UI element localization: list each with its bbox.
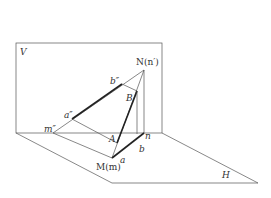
label-n: n — [145, 131, 151, 141]
line-a2-b2-thick — [72, 84, 122, 119]
label-N: N(n′) — [136, 57, 159, 67]
projection-diagram: V H N(n′) b″ B a″ m″ A n b M(m) a — [0, 0, 271, 198]
label-H: H — [221, 170, 230, 180]
label-a: a — [120, 155, 125, 165]
label-b2: b″ — [110, 76, 120, 86]
label-A: A — [108, 134, 116, 144]
label-m2: m″ — [44, 124, 57, 134]
line-m2-M — [53, 133, 112, 158]
label-M: M(m) — [96, 162, 121, 172]
label-V: V — [20, 47, 28, 57]
line-b2-B — [122, 84, 137, 91]
label-b: b — [139, 144, 145, 154]
label-a2: a″ — [64, 110, 73, 120]
label-B: B — [125, 93, 133, 103]
